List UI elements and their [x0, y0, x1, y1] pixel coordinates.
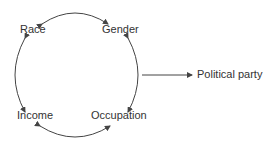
node-occupation: Occupation — [91, 109, 147, 121]
node-race: Race — [20, 23, 46, 35]
edge-race-gender — [42, 13, 108, 24]
node-gender: Gender — [102, 23, 139, 35]
edge-income-occupation — [40, 126, 110, 137]
edge-race-income — [15, 38, 25, 112]
node-political-party: Political party — [197, 68, 262, 80]
edge-gender-occupation — [128, 38, 138, 112]
node-income: Income — [17, 109, 53, 121]
